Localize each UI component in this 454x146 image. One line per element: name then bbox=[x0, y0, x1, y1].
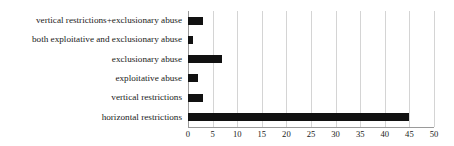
x-tick-label: 35 bbox=[356, 129, 365, 139]
category-axis-labels: vertical restrictions+exclusionary abuse… bbox=[0, 11, 186, 127]
bar-chart: vertical restrictions+exclusionary abuse… bbox=[0, 0, 454, 146]
x-tick-label: 5 bbox=[210, 129, 214, 139]
x-tick-label: 0 bbox=[186, 129, 190, 139]
gridline bbox=[434, 11, 435, 127]
x-tick-label: 40 bbox=[381, 129, 390, 139]
x-tick-label: 15 bbox=[258, 129, 267, 139]
bar-row bbox=[188, 11, 434, 30]
x-tick-label: 20 bbox=[282, 129, 291, 139]
bar bbox=[188, 17, 203, 25]
bar-row bbox=[188, 69, 434, 88]
x-axis-line bbox=[188, 127, 434, 128]
category-label: horizontal restrictions bbox=[102, 108, 182, 127]
bar-row bbox=[188, 50, 434, 69]
x-axis-tick-labels: 05101520253035404550 bbox=[188, 129, 434, 143]
x-tick-label: 10 bbox=[233, 129, 242, 139]
category-label: exploitative abuse bbox=[115, 69, 182, 88]
bar bbox=[188, 74, 198, 82]
x-tick-label: 45 bbox=[405, 129, 414, 139]
bar bbox=[188, 113, 409, 121]
bar-row bbox=[188, 30, 434, 49]
x-tick-label: 25 bbox=[307, 129, 316, 139]
category-label: both exploitative and exclusionary abuse bbox=[32, 30, 182, 49]
plot-area bbox=[188, 11, 434, 127]
bar bbox=[188, 55, 222, 63]
x-tick-label: 30 bbox=[331, 129, 340, 139]
category-label: exclusionary abuse bbox=[112, 50, 182, 69]
bar-row bbox=[188, 88, 434, 107]
category-label: vertical restrictions+exclusionary abuse bbox=[36, 11, 182, 30]
category-label: vertical restrictions bbox=[111, 88, 182, 107]
bar-row bbox=[188, 108, 434, 127]
x-tick-label: 50 bbox=[430, 129, 439, 139]
bar bbox=[188, 94, 203, 102]
bar bbox=[188, 36, 193, 44]
